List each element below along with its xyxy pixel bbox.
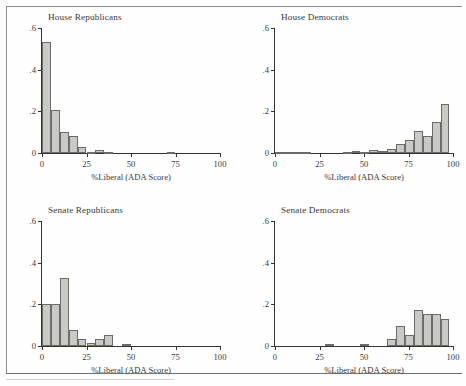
- y-tick: [38, 111, 41, 112]
- y-tick: [38, 70, 41, 71]
- y-tick: [271, 70, 274, 71]
- y-tick: [271, 304, 274, 305]
- x-tick-label: 100: [439, 352, 466, 362]
- histogram-bar: [122, 344, 131, 346]
- x-tick-label: 0: [261, 159, 289, 169]
- histogram-bar: [167, 152, 176, 154]
- x-axis-title: %Liberal (ADA Score): [22, 365, 240, 375]
- histogram-bar: [441, 319, 450, 346]
- histogram-bar: [78, 147, 87, 153]
- y-tick-label: .6: [16, 216, 36, 226]
- x-tick: [87, 347, 88, 350]
- y-tick-label: 0: [16, 148, 36, 158]
- y-tick: [271, 221, 274, 222]
- panel-title: House Democrats: [281, 12, 349, 22]
- panel-house-republicans: House Republicans0.2.4.60255075100%Liber…: [14, 12, 234, 193]
- histogram-bar: [87, 152, 96, 154]
- histogram-bar: [432, 122, 441, 153]
- x-tick-label: 0: [28, 352, 56, 362]
- histogram-bar: [87, 343, 96, 346]
- histogram-bar: [360, 344, 369, 346]
- x-tick-label: 50: [117, 352, 145, 362]
- histogram-bar: [325, 344, 334, 346]
- x-tick: [42, 154, 43, 157]
- y-tick: [38, 153, 41, 154]
- histogram-bar: [69, 330, 78, 346]
- y-tick-label: 0: [249, 148, 269, 158]
- x-tick-label: 50: [350, 352, 378, 362]
- x-tick-label: 25: [306, 352, 334, 362]
- x-tick-label: 25: [306, 159, 334, 169]
- histogram-bar: [352, 151, 361, 154]
- x-tick-label: 100: [206, 352, 234, 362]
- y-tick-label: .4: [249, 65, 269, 75]
- x-tick-label: 50: [350, 159, 378, 169]
- histogram-bar: [396, 326, 405, 346]
- x-tick-label: 25: [73, 159, 101, 169]
- x-tick-label: 100: [206, 159, 234, 169]
- x-tick-label: 25: [73, 352, 101, 362]
- panel-senate-democrats: Senate Democrats0.2.4.60255075100%Libera…: [247, 205, 466, 386]
- histogram-bar: [95, 150, 104, 153]
- histogram-bar: [104, 335, 113, 346]
- x-tick: [176, 154, 177, 157]
- x-tick-label: 75: [162, 159, 190, 169]
- y-tick: [38, 28, 41, 29]
- histogram-bar: [60, 132, 69, 153]
- x-tick-label: 75: [395, 352, 423, 362]
- histogram-bar: [275, 152, 311, 154]
- histogram-bar: [42, 304, 51, 346]
- x-tick-label: 75: [162, 352, 190, 362]
- histogram-bar: [369, 150, 378, 153]
- histogram-bar: [104, 152, 113, 154]
- x-tick: [176, 347, 177, 350]
- histogram-bar: [387, 339, 396, 346]
- histogram-bar: [51, 110, 60, 153]
- histogram-bar: [51, 304, 60, 346]
- histogram-bar: [396, 144, 405, 153]
- y-tick-label: 0: [249, 341, 269, 351]
- x-tick: [131, 347, 132, 350]
- histogram-bar: [405, 140, 414, 153]
- y-tick-label: .2: [16, 106, 36, 116]
- histogram-bar: [423, 136, 432, 153]
- x-tick: [409, 347, 410, 350]
- histogram-bar: [60, 278, 69, 346]
- histogram-bar: [414, 131, 423, 153]
- x-tick-label: 0: [261, 352, 289, 362]
- y-tick: [271, 111, 274, 112]
- x-tick: [131, 154, 132, 157]
- x-tick: [87, 154, 88, 157]
- x-tick: [320, 347, 321, 350]
- y-tick: [271, 263, 274, 264]
- x-tick: [275, 154, 276, 157]
- y-tick: [38, 304, 41, 305]
- x-tick: [275, 347, 276, 350]
- histogram-bar: [95, 339, 104, 346]
- y-tick: [38, 346, 41, 347]
- histogram-bar: [360, 152, 369, 154]
- panel-title: Senate Republicans: [48, 205, 123, 215]
- y-tick-label: .2: [16, 299, 36, 309]
- histogram-bar: [378, 151, 387, 153]
- y-tick-label: .6: [249, 216, 269, 226]
- histogram-bar: [69, 136, 78, 153]
- y-tick: [38, 221, 41, 222]
- x-tick: [364, 347, 365, 350]
- x-axis-title: %Liberal (ADA Score): [255, 172, 466, 182]
- y-tick: [271, 346, 274, 347]
- figure-root: House Republicans0.2.4.60255075100%Liber…: [0, 0, 466, 386]
- x-tick: [453, 154, 454, 157]
- y-tick-label: .4: [16, 65, 36, 75]
- plot-area: [42, 28, 220, 153]
- x-tick: [42, 347, 43, 350]
- x-axis-title: %Liberal (ADA Score): [22, 172, 240, 182]
- figure-border-top: [6, 6, 462, 7]
- x-tick: [320, 154, 321, 157]
- histogram-bar: [42, 42, 51, 153]
- x-axis-title: %Liberal (ADA Score): [255, 365, 466, 375]
- y-tick-label: .6: [16, 23, 36, 33]
- y-axis-line: [274, 221, 275, 347]
- panel-title: House Republicans: [48, 12, 122, 22]
- x-tick-label: 75: [395, 159, 423, 169]
